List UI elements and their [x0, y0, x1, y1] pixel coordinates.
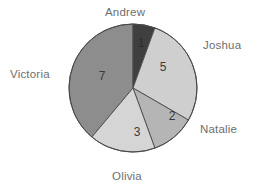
category-label-andrew: Andrew: [105, 6, 146, 18]
category-label-olivia: Olivia: [112, 170, 142, 182]
slice-value-victoria: 7: [99, 69, 106, 83]
category-label-victoria: Victoria: [10, 68, 50, 80]
slice-value-andrew: 1: [138, 36, 145, 50]
slice-value-natalie: 2: [169, 109, 176, 123]
pie-chart-page: 1 5 2 3 7 Andrew Joshua Natalie Olivia V…: [0, 0, 257, 190]
pie-chart: 1 5 2 3 7 Andrew Joshua Natalie Olivia V…: [0, 0, 257, 190]
category-label-natalie: Natalie: [200, 123, 237, 135]
slice-value-olivia: 3: [134, 125, 141, 139]
category-label-joshua: Joshua: [203, 39, 242, 51]
slice-value-joshua: 5: [160, 60, 167, 74]
